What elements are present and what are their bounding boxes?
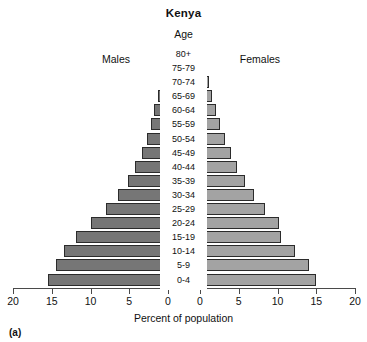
xtick-left-10-mark — [91, 289, 92, 294]
bar-male-20-24 — [91, 217, 168, 229]
xtick-right-20-label: 20 — [343, 295, 367, 307]
pyramid-row: 60-64 — [0, 103, 367, 117]
pyramid-row: 15-19 — [0, 230, 367, 244]
pyramid-row: 30-34 — [0, 188, 367, 202]
pyramid-row: 50-54 — [0, 132, 367, 146]
xtick-right-15-mark — [316, 289, 317, 294]
xtick-right-0-label: 0 — [188, 295, 212, 307]
age-label-5-9: 5-9 — [160, 258, 207, 272]
xtick-left-15-label: 15 — [40, 295, 64, 307]
bar-female-0-4 — [200, 274, 316, 286]
age-label-30-34: 30-34 — [160, 188, 207, 202]
xtick-left-10-label: 10 — [79, 295, 103, 307]
pyramid-row: 25-29 — [0, 202, 367, 216]
age-label-0-4: 0-4 — [160, 273, 207, 287]
bar-male-5-9 — [56, 259, 168, 271]
age-label-15-19: 15-19 — [160, 230, 207, 244]
xtick-right-10-mark — [278, 289, 279, 294]
xtick-left-0-label: 0 — [156, 295, 180, 307]
bar-male-25-29 — [106, 203, 168, 215]
bar-female-25-29 — [200, 203, 265, 215]
bar-male-10-14 — [64, 245, 168, 257]
pyramid-row: 45-49 — [0, 146, 367, 160]
plot-area: 80+75-7970-7465-6960-6455-5950-5445-4940… — [0, 0, 367, 342]
age-label-45-49: 45-49 — [160, 146, 207, 160]
pyramid-row: 10-14 — [0, 244, 367, 258]
age-label-25-29: 25-29 — [160, 202, 207, 216]
pyramid-row: 70-74 — [0, 75, 367, 89]
pyramid-row: 65-69 — [0, 89, 367, 103]
population-pyramid-figure: Kenya Age Males Females 80+75-7970-7465-… — [0, 0, 367, 342]
bar-female-5-9 — [200, 259, 309, 271]
xtick-right-5-label: 5 — [227, 295, 251, 307]
xtick-left-5-mark — [129, 289, 130, 294]
age-label-65-69: 65-69 — [160, 89, 207, 103]
bar-female-10-14 — [200, 245, 295, 257]
age-label-70-74: 70-74 — [160, 75, 207, 89]
bar-male-0-4 — [48, 274, 168, 286]
age-label-80+: 80+ — [160, 47, 207, 61]
bar-male-15-19 — [76, 231, 168, 243]
xtick-right-5-mark — [239, 289, 240, 294]
xtick-right-20-mark — [355, 289, 356, 294]
pyramid-row: 20-24 — [0, 216, 367, 230]
bar-female-20-24 — [200, 217, 279, 229]
bar-female-15-19 — [200, 231, 281, 243]
xtick-left-5-label: 5 — [117, 295, 141, 307]
age-label-55-59: 55-59 — [160, 117, 207, 131]
age-label-50-54: 50-54 — [160, 132, 207, 146]
pyramid-row: 0-4 — [0, 273, 367, 287]
pyramid-row: 80+ — [0, 47, 367, 61]
age-label-10-14: 10-14 — [160, 244, 207, 258]
age-label-35-39: 35-39 — [160, 174, 207, 188]
pyramid-row: 75-79 — [0, 61, 367, 75]
xtick-left-15-mark — [52, 289, 53, 294]
xtick-left-20-mark — [13, 289, 14, 294]
pyramid-row: 55-59 — [0, 117, 367, 131]
age-label-40-44: 40-44 — [160, 160, 207, 174]
pyramid-row: 5-9 — [0, 258, 367, 272]
pyramid-row: 35-39 — [0, 174, 367, 188]
panel-caption: (a) — [9, 327, 21, 338]
xtick-right-15-label: 15 — [304, 295, 328, 307]
xtick-left-20-label: 20 — [1, 295, 25, 307]
xtick-right-10-label: 10 — [266, 295, 290, 307]
age-label-60-64: 60-64 — [160, 103, 207, 117]
pyramid-rows: 80+75-7970-7465-6960-6455-5950-5445-4940… — [0, 47, 367, 287]
bar-female-30-34 — [200, 189, 254, 201]
age-label-75-79: 75-79 — [160, 61, 207, 75]
pyramid-row: 40-44 — [0, 160, 367, 174]
age-label-20-24: 20-24 — [160, 216, 207, 230]
x-axis-label: Percent of population — [0, 312, 367, 324]
